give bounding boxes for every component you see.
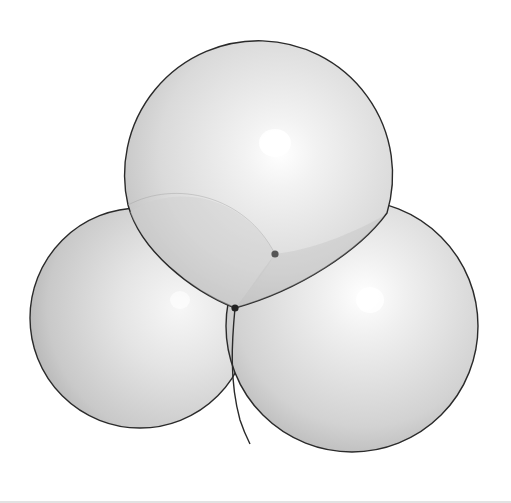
three-sphere-figure <box>0 0 511 503</box>
left-highlight <box>170 291 190 309</box>
triple-junction-dot <box>231 304 238 311</box>
top-highlight <box>259 129 291 157</box>
inner-vertex-dot <box>271 250 278 257</box>
right-highlight <box>356 287 384 313</box>
